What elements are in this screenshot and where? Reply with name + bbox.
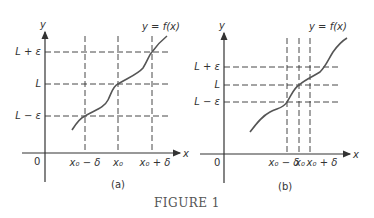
grid-lines-b xyxy=(224,38,340,154)
grid-lines-a xyxy=(45,36,168,153)
panel-a: y x 0 y = f(x) L + ε L L − ε x₀ − δ x₀ x… xyxy=(15,19,189,190)
tick-x0-plus-delta: x₀ + δ xyxy=(306,157,338,168)
origin-label: 0 xyxy=(214,157,220,168)
tick-L-plus-eps: L + ε xyxy=(194,61,220,72)
function-label: y = f(x) xyxy=(308,21,347,32)
tick-L: L xyxy=(35,78,41,89)
tick-L-plus-eps: L + ε xyxy=(15,46,41,57)
panel-caption-b: (b) xyxy=(278,181,292,192)
tick-L-minus-eps: L − ε xyxy=(15,110,41,121)
tick-x0-plus-delta: x₀ + δ xyxy=(139,157,171,168)
origin-label: 0 xyxy=(34,156,40,167)
x-axis-label: x xyxy=(182,148,189,159)
panel-caption-a: (a) xyxy=(111,179,125,190)
x-axis-label: x xyxy=(352,149,359,160)
y-axis-label: y xyxy=(218,20,226,31)
tick-x0-minus-delta: x₀ − δ xyxy=(69,157,101,168)
figure-title: FIGURE 1 xyxy=(0,196,374,210)
y-axis-label: y xyxy=(39,19,47,30)
panel-b: y x 0 y = f(x) L + ε L L − ε x₀ − δ x₀ x… xyxy=(194,20,359,192)
tick-L: L xyxy=(214,79,220,90)
tick-x0: x₀ xyxy=(112,157,123,168)
figure-canvas: y x 0 y = f(x) L + ε L L − ε x₀ − δ x₀ x… xyxy=(0,0,374,218)
tick-L-minus-eps: L − ε xyxy=(194,96,220,107)
tick-x0: x₀ xyxy=(294,157,305,168)
function-label: y = f(x) xyxy=(141,21,180,32)
